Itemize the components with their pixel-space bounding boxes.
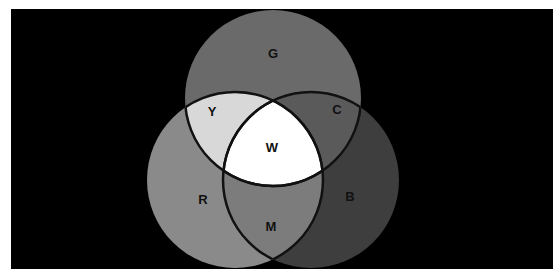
label-g: G [268,46,278,61]
label-c: C [332,102,342,117]
label-r: R [198,192,208,207]
venn-diagram: G Y C W R B M [0,0,553,273]
label-w: W [266,140,279,155]
label-b: B [345,189,354,204]
label-y: Y [208,104,217,119]
label-m: M [266,219,277,234]
